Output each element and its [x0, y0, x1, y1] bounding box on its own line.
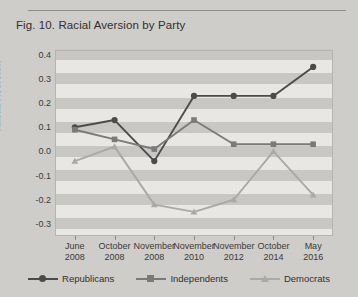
x-axis-tick-label: November2010 — [173, 241, 215, 263]
plot-border — [55, 50, 333, 236]
y-axis-tick-label: -0.1 — [35, 171, 51, 181]
x-axis-tick-label: June2008 — [65, 241, 85, 263]
x-axis-tick-label: October2008 — [99, 241, 131, 263]
x-axis-tick-line: November — [213, 241, 255, 252]
chart-legend: RepublicansIndependentsDemocrats — [0, 273, 358, 284]
x-axis-tick-line: 2010 — [173, 252, 215, 263]
legend-swatch — [250, 274, 280, 284]
legend-swatch — [136, 274, 166, 284]
legend-label: Republicans — [62, 273, 114, 284]
x-axis-tick-line: 2016 — [303, 252, 323, 263]
y-axis-tick-label: 0.1 — [38, 122, 51, 132]
x-axis-tick-line: October — [257, 241, 289, 252]
x-axis-tick-mark — [273, 236, 274, 240]
legend-marker-square-icon — [147, 275, 154, 282]
x-axis-tick-line: 2008 — [134, 252, 176, 263]
x-axis-tick-mark — [234, 236, 235, 240]
y-axis-tick-label: -0.3 — [35, 219, 51, 229]
x-axis-tick-label: November2008 — [134, 241, 176, 263]
y-axis-tick-label: 0.3 — [38, 74, 51, 84]
legend-label: Democrats — [284, 273, 330, 284]
x-axis-tick-mark — [194, 236, 195, 240]
x-axis-tick-line: 2008 — [99, 252, 131, 263]
x-axis-tick-mark — [115, 236, 116, 240]
y-axis-ticks: 0.40.30.20.10.0-0.1-0.2-0.3 — [20, 50, 51, 236]
legend-marker-circle-icon — [39, 275, 46, 282]
x-axis-tick-line: May — [303, 241, 323, 252]
legend-item-democrats[interactable]: Democrats — [250, 273, 330, 284]
header-rule — [28, 10, 346, 11]
figure-page: Fig. 10. Racial Aversion by Party Racial… — [0, 0, 358, 297]
x-axis-tick-mark — [313, 236, 314, 240]
x-axis-tick-mark — [75, 236, 76, 240]
y-axis-title: Racial Aversion — [0, 61, 2, 132]
legend-label: Independents — [170, 273, 228, 284]
y-axis-tick-label: 0.4 — [38, 50, 51, 60]
legend-marker-triangle-icon — [261, 275, 269, 282]
legend-item-independents[interactable]: Independents — [136, 273, 228, 284]
x-axis-tick-line: 2012 — [213, 252, 255, 263]
y-axis-tick-label: 0.0 — [38, 146, 51, 156]
legend-item-republicans[interactable]: Republicans — [28, 273, 114, 284]
x-axis-tick-line: October — [99, 241, 131, 252]
legend-swatch — [28, 274, 58, 284]
y-axis-tick-label: -0.2 — [35, 195, 51, 205]
x-axis-tick-line: 2014 — [257, 252, 289, 263]
figure-caption: Fig. 10. Racial Aversion by Party — [16, 19, 185, 31]
x-axis-tick-line: 2008 — [65, 252, 85, 263]
x-axis-tick-label: November2012 — [213, 241, 255, 263]
x-axis-tick-mark — [154, 236, 155, 240]
plot-area — [55, 50, 333, 236]
y-axis-tick-label: 0.2 — [38, 98, 51, 108]
x-axis-tick-line: November — [173, 241, 215, 252]
x-axis-tick-line: November — [134, 241, 176, 252]
x-axis-tick-line: June — [65, 241, 85, 252]
x-axis-tick-label: October2014 — [257, 241, 289, 263]
x-axis-tick-label: May2016 — [303, 241, 323, 263]
